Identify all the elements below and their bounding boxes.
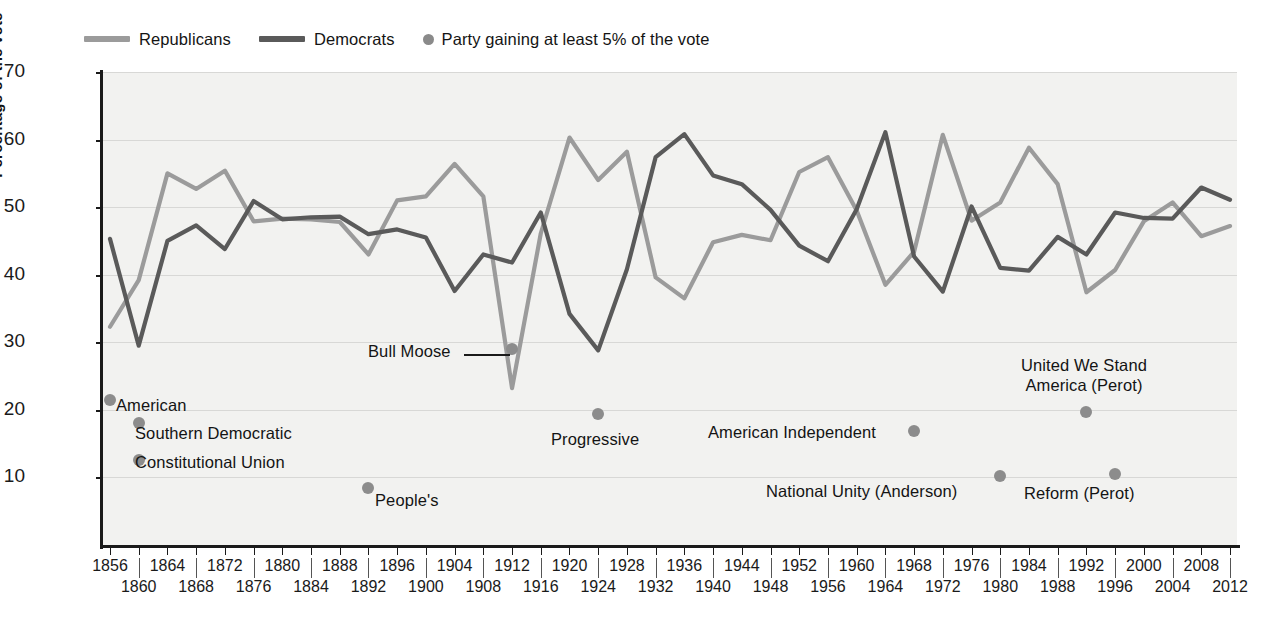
x-tick-label-1868: 1868 — [166, 578, 226, 596]
x-label-separator — [771, 558, 772, 578]
x-tick-label-1932: 1932 — [626, 578, 686, 596]
x-tick-mark-1952 — [799, 546, 800, 555]
third-party-dot-reform-perot — [1109, 468, 1121, 480]
x-tick-mark-1872 — [225, 546, 226, 555]
x-label-separator — [541, 558, 542, 578]
x-tick-mark-1932 — [656, 546, 657, 555]
legend-item-third-party: Party gaining at least 5% of the vote — [423, 30, 710, 49]
x-tick-mark-2008 — [1201, 546, 1202, 555]
x-tick-label-1972: 1972 — [913, 578, 973, 596]
x-tick-mark-1900 — [426, 546, 427, 555]
x-tick-label-1900: 1900 — [396, 578, 456, 596]
x-label-separator — [1115, 558, 1116, 578]
x-tick-mark-1916 — [541, 546, 542, 555]
y-tick-mark-20 — [96, 410, 103, 412]
y-tick-label-50: 50 — [0, 195, 25, 217]
x-label-separator — [943, 558, 944, 578]
third-party-dot-american-independent — [908, 425, 920, 437]
x-tick-mark-1984 — [1029, 546, 1030, 555]
annotation-peoples: People's — [375, 490, 439, 510]
x-tick-mark-1880 — [282, 546, 283, 555]
x-tick-mark-1960 — [857, 546, 858, 555]
x-tick-mark-1972 — [943, 546, 944, 555]
x-tick-mark-1936 — [684, 546, 685, 555]
x-tick-label-1964: 1964 — [855, 578, 915, 596]
series-line-democrats — [110, 132, 1230, 350]
chart-legend: Republicans Democrats Party gaining at l… — [84, 26, 737, 52]
x-tick-label-2008: 2008 — [1171, 557, 1231, 575]
y-tick-label-70: 70 — [0, 60, 25, 82]
x-tick-label-1976: 1976 — [942, 557, 1002, 575]
legend-label-republicans: Republicans — [139, 30, 231, 49]
x-tick-mark-1864 — [167, 546, 168, 555]
plot-area — [103, 72, 1237, 545]
x-label-separator — [139, 558, 140, 578]
x-label-separator — [885, 558, 886, 578]
x-tick-label-1884: 1884 — [281, 578, 341, 596]
y-tick-mark-70 — [96, 72, 103, 74]
y-tick-mark-50 — [96, 207, 103, 209]
x-tick-label-1960: 1960 — [827, 557, 887, 575]
annotation-constitutional-union: Constitutional Union — [135, 452, 285, 472]
x-axis-ticks: 1856186018641868187218761880188418881892… — [103, 546, 1237, 606]
x-tick-label-1924: 1924 — [568, 578, 628, 596]
x-tick-mark-1860 — [139, 546, 140, 555]
x-tick-label-1860: 1860 — [109, 578, 169, 596]
x-tick-label-1912: 1912 — [482, 557, 542, 575]
x-tick-mark-1856 — [110, 546, 111, 555]
x-label-separator — [1000, 558, 1001, 578]
x-label-separator — [713, 558, 714, 578]
x-tick-label-1948: 1948 — [741, 578, 801, 596]
y-tick-label-30: 30 — [0, 330, 25, 352]
x-label-separator — [311, 558, 312, 578]
x-tick-mark-1940 — [713, 546, 714, 555]
x-tick-label-1984: 1984 — [999, 557, 1059, 575]
annotation-united-we-stand-line1: United We Stand — [1021, 356, 1147, 374]
x-tick-mark-1992 — [1086, 546, 1087, 555]
x-label-separator — [1173, 558, 1174, 578]
x-tick-mark-1892 — [368, 546, 369, 555]
y-tick-mark-60 — [96, 140, 103, 142]
third-party-dot-people-s — [362, 482, 374, 494]
y-tick-label-20: 20 — [0, 398, 25, 420]
annotation-united-we-stand-line2: America (Perot) — [1025, 376, 1142, 394]
x-tick-mark-1968 — [914, 546, 915, 555]
x-label-separator — [254, 558, 255, 578]
series-lines — [103, 72, 1237, 545]
x-label-separator — [656, 558, 657, 578]
x-tick-label-1968: 1968 — [884, 557, 944, 575]
x-tick-label-2004: 2004 — [1143, 578, 1203, 596]
x-tick-label-1896: 1896 — [367, 557, 427, 575]
annotation-bull-moose: Bull Moose — [368, 341, 451, 361]
x-tick-mark-2004 — [1173, 546, 1174, 555]
x-tick-label-2000: 2000 — [1114, 557, 1174, 575]
y-tick-label-10: 10 — [0, 465, 25, 487]
x-tick-mark-1912 — [512, 546, 513, 555]
chart-root: Republicans Democrats Party gaining at l… — [0, 0, 1270, 619]
x-tick-label-1864: 1864 — [137, 557, 197, 575]
x-tick-mark-1908 — [483, 546, 484, 555]
legend-swatch-democrats — [259, 36, 305, 42]
y-tick-mark-40 — [96, 275, 103, 277]
x-label-separator — [828, 558, 829, 578]
y-tick-label-40: 40 — [0, 263, 25, 285]
x-tick-mark-2000 — [1144, 546, 1145, 555]
x-tick-label-1956: 1956 — [798, 578, 858, 596]
annotation-southern-democratic: Southern Democratic — [135, 423, 292, 443]
x-label-separator — [1230, 558, 1231, 578]
annotation-united-we-stand: United We Stand America (Perot) — [1021, 355, 1147, 395]
x-tick-label-1980: 1980 — [970, 578, 1030, 596]
x-tick-mark-1980 — [1000, 546, 1001, 555]
x-tick-mark-1920 — [569, 546, 570, 555]
x-tick-mark-1884 — [311, 546, 312, 555]
x-tick-mark-2012 — [1230, 546, 1231, 555]
third-party-dot-progressive — [592, 408, 604, 420]
x-label-separator — [1058, 558, 1059, 578]
x-tick-mark-1996 — [1115, 546, 1116, 555]
x-tick-label-1920: 1920 — [539, 557, 599, 575]
legend-dot-icon — [423, 34, 434, 45]
x-tick-label-1916: 1916 — [511, 578, 571, 596]
x-tick-mark-1948 — [771, 546, 772, 555]
third-party-dot-united-we-stand-america-perot — [1080, 406, 1092, 418]
x-label-separator — [483, 558, 484, 578]
